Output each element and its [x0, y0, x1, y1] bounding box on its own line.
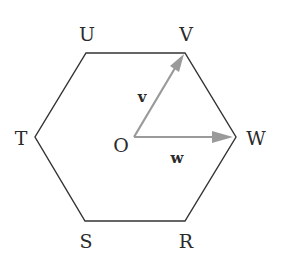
vertex-label-r: R — [179, 230, 194, 252]
hexagon-diagram: U V W R S T O v w — [0, 0, 281, 269]
vertex-label-u: U — [79, 23, 95, 45]
center-label-o: O — [113, 134, 129, 156]
vector-label-w: w — [170, 149, 185, 167]
vertex-label-s: S — [79, 230, 92, 252]
vertex-label-w: W — [246, 127, 266, 149]
vector-label-v: v — [137, 88, 148, 106]
vector-v-arrowhead — [170, 54, 184, 72]
vector-w-arrowhead — [212, 131, 233, 143]
vertex-label-v: V — [178, 23, 193, 45]
vertex-label-t: T — [15, 127, 28, 149]
